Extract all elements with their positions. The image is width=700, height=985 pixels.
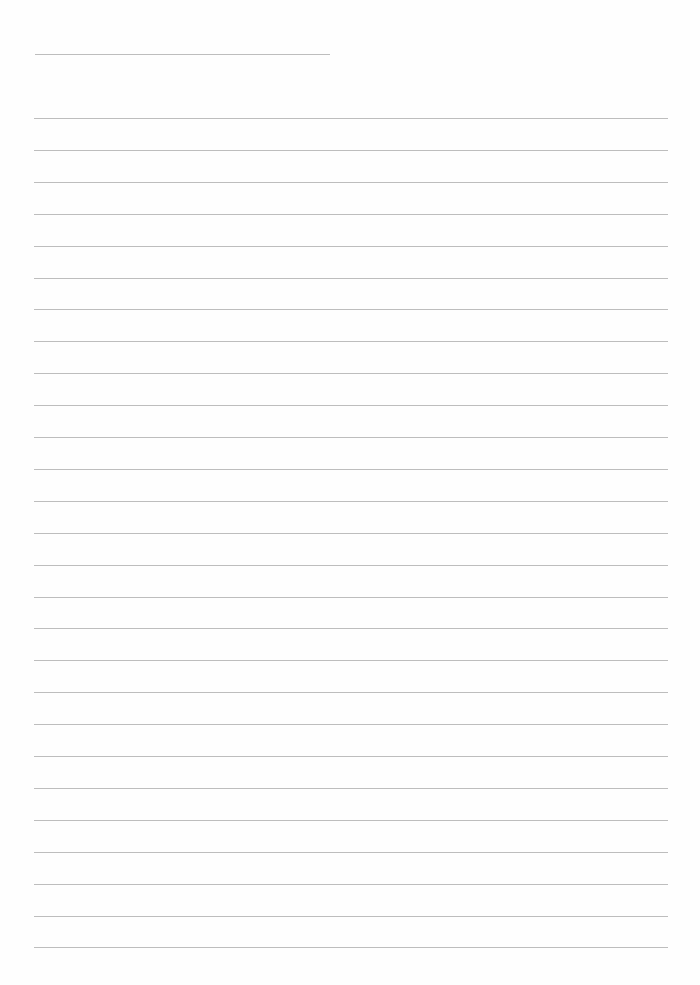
ruled-line: [34, 182, 668, 183]
ruled-line: [34, 597, 668, 598]
ruled-line: [34, 469, 668, 470]
ruled-line: [34, 278, 668, 279]
ruled-line: [34, 533, 668, 534]
ruled-line: [34, 373, 668, 374]
ruled-line: [34, 405, 668, 406]
ruled-line: [34, 628, 668, 629]
header-name-line: [35, 54, 330, 55]
ruled-line: [34, 150, 668, 151]
ruled-line: [34, 947, 668, 948]
ruled-line: [34, 501, 668, 502]
ruled-line: [34, 756, 668, 757]
ruled-line: [34, 916, 668, 917]
ruled-line: [34, 884, 668, 885]
ruled-line: [34, 565, 668, 566]
ruled-line: [34, 660, 668, 661]
ruled-line: [34, 246, 668, 247]
ruled-line: [34, 724, 668, 725]
ruled-line: [34, 852, 668, 853]
ruled-line: [34, 309, 668, 310]
ruled-line: [34, 437, 668, 438]
lined-paper-page: [0, 0, 700, 985]
ruled-line: [34, 341, 668, 342]
ruled-line: [34, 692, 668, 693]
ruled-line: [34, 214, 668, 215]
ruled-line: [34, 820, 668, 821]
ruled-line: [34, 788, 668, 789]
ruled-line: [34, 118, 668, 119]
